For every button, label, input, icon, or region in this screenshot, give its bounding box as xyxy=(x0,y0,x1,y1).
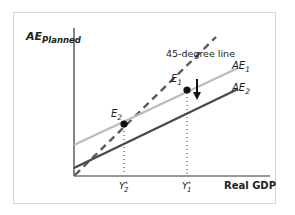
e2-label: E2 xyxy=(111,108,122,122)
x-tick-y2: Y*2 xyxy=(119,180,129,194)
e1-label: E1 xyxy=(171,73,182,87)
ae2-label: AE2 xyxy=(231,82,250,96)
line-ae1 xyxy=(74,68,238,145)
y-axis-label: AEPlanned xyxy=(25,30,82,45)
x-axis-label: Real GDP xyxy=(224,180,276,191)
chart-canvas: AEPlanned Real GDP 45-degree line AE1 AE… xyxy=(0,0,295,215)
x-tick-y1: Y*1 xyxy=(182,180,192,194)
line-45-label: 45-degree line xyxy=(166,48,235,59)
ae1-label: AE1 xyxy=(231,60,250,74)
line-ae2 xyxy=(74,89,238,168)
point-e1 xyxy=(183,86,190,93)
